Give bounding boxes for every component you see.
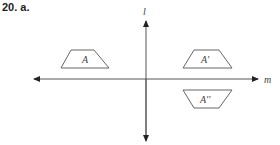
figure-a-double-prime-label: A''	[199, 94, 211, 105]
figure-a-label: A	[81, 54, 89, 65]
line-m-label: m	[264, 74, 271, 85]
figure-a-prime: A'	[183, 50, 232, 68]
figure-a: A	[61, 50, 109, 68]
reflection-diagram: l m A A' A''	[0, 0, 280, 145]
line-l-label: l	[143, 6, 146, 17]
figure-a-prime-label: A'	[200, 54, 210, 65]
figure-a-double-prime: A''	[183, 90, 232, 108]
